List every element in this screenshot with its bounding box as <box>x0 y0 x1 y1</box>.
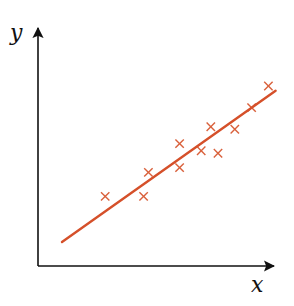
x-axis-label: x <box>251 272 264 297</box>
data-point-x-marker <box>214 149 222 157</box>
data-point-x-marker <box>139 192 147 200</box>
data-point-x-marker <box>264 82 272 90</box>
data-point-x-marker <box>207 123 215 131</box>
scatter-plot-with-regression-line: y x <box>0 0 294 306</box>
y-axis-label: y <box>9 20 23 45</box>
data-point-x-marker <box>175 139 183 147</box>
data-point-x-marker <box>101 192 109 200</box>
data-point-x-marker <box>231 125 239 133</box>
data-point-x-marker <box>197 147 205 155</box>
regression-line <box>62 91 276 242</box>
plot-area <box>62 82 276 242</box>
data-point-x-marker <box>175 163 183 171</box>
data-point-x-marker <box>144 168 152 176</box>
